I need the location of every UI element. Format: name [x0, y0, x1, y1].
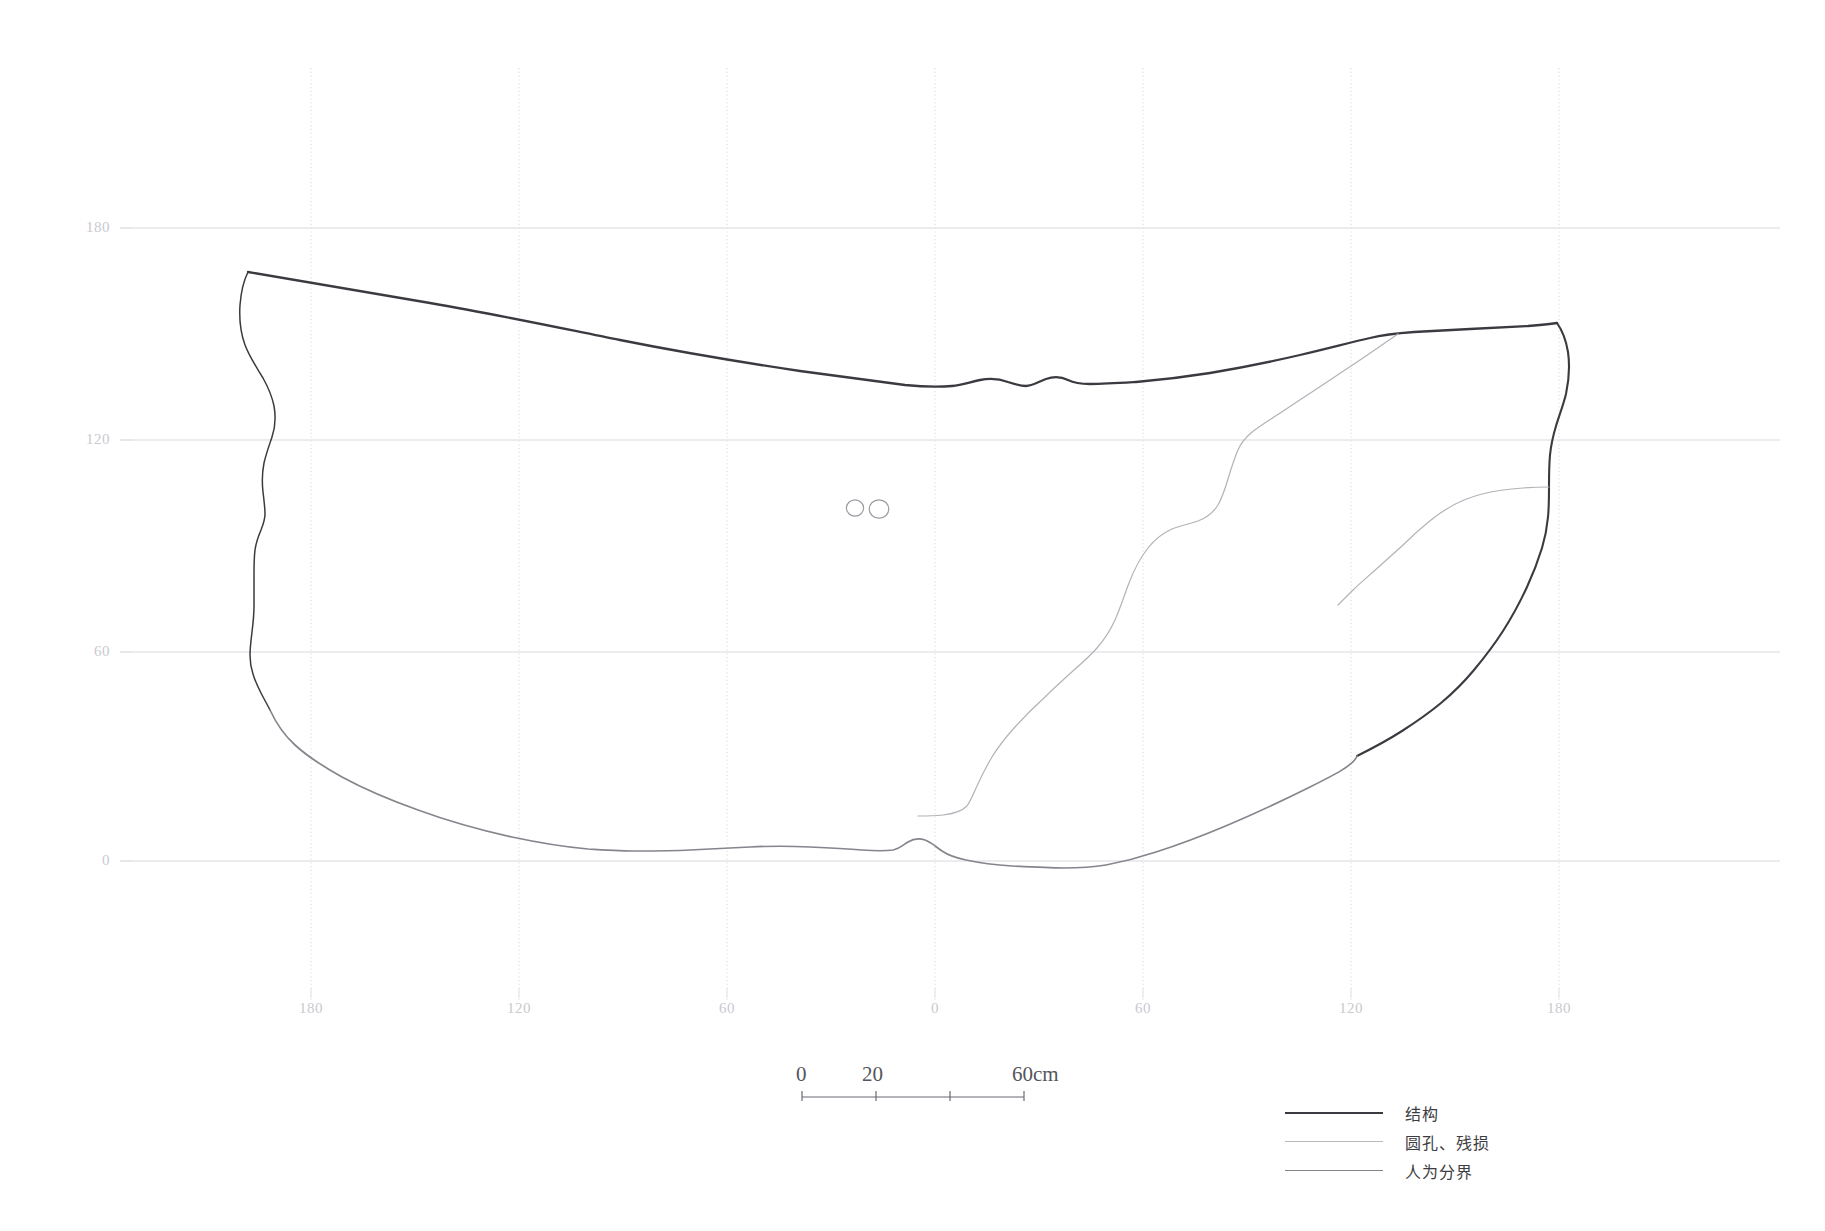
y-axis-label-180: 180	[58, 219, 110, 236]
structure-right-edge	[1357, 323, 1569, 756]
figure-canvas: 180 120 60 0 180 120 60 0 60 120 180 0 2…	[0, 0, 1825, 1231]
legend-swatch-hole-damage-icon	[1285, 1141, 1383, 1142]
legend-label-hole-damage: 圆孔、残损	[1405, 1130, 1490, 1154]
artificial-boundary-bottom	[270, 710, 1357, 868]
horizontal-gridlines	[120, 228, 1780, 861]
x-axis-label-120-left: 120	[489, 1000, 549, 1017]
x-axis-label-60-left: 60	[697, 1000, 757, 1017]
round-holes-layer	[846, 500, 888, 518]
round-hole-left	[846, 500, 863, 516]
legend-swatch-structure-icon	[1285, 1112, 1383, 1114]
cross-section-drawing	[0, 0, 1825, 1231]
x-axis-ticks	[311, 988, 1559, 998]
x-axis-label-60-right: 60	[1113, 1000, 1173, 1017]
y-axis-label-120: 120	[58, 431, 110, 448]
legend-label-structure: 结构	[1405, 1101, 1439, 1125]
y-axis-label-60: 60	[58, 643, 110, 660]
legend-item-structure[interactable]: 结构	[1285, 1098, 1545, 1127]
y-axis-label-0: 0	[58, 852, 110, 869]
y-axis-ticks	[120, 228, 132, 861]
structure-top-rim	[248, 272, 1557, 387]
structure-left-edge	[240, 272, 275, 710]
legend-item-artificial-boundary[interactable]: 人为分界	[1285, 1156, 1545, 1185]
x-axis-label-180-left: 180	[281, 1000, 341, 1017]
vertical-gridlines	[311, 68, 1559, 1000]
scalebar-graphic	[802, 1091, 1024, 1101]
damage-crack-lower	[1338, 487, 1549, 605]
x-axis-label-120-right: 120	[1321, 1000, 1381, 1017]
damage-crack-upper	[918, 334, 1398, 816]
legend-swatch-artificial-boundary-icon	[1285, 1170, 1383, 1171]
artificial-boundary-layer	[270, 710, 1357, 868]
grid-layer	[120, 68, 1780, 1000]
legend-label-artificial-boundary: 人为分界	[1405, 1159, 1473, 1183]
structure-layer	[240, 272, 1569, 756]
legend-item-hole-damage[interactable]: 圆孔、残损	[1285, 1127, 1545, 1156]
round-hole-right	[869, 500, 889, 518]
x-axis-label-180-right: 180	[1529, 1000, 1589, 1017]
legend: 结构 圆孔、残损 人为分界	[1285, 1098, 1545, 1185]
x-axis-label-0: 0	[905, 1000, 965, 1017]
damage-layer	[918, 334, 1549, 816]
